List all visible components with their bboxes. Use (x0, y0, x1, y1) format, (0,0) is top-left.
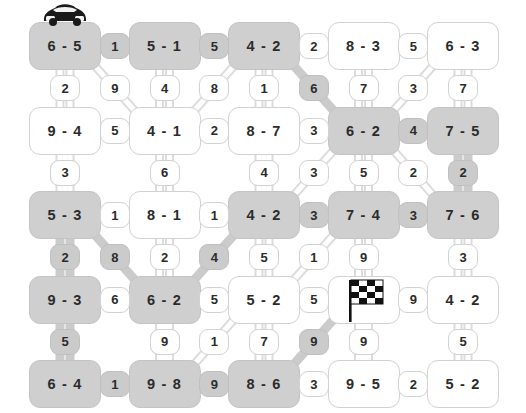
horizontal-edge-h3-3[interactable]: 9 (398, 287, 428, 313)
node-n0-3[interactable]: 8 - 3 (328, 22, 400, 70)
horizontal-edge-h0-1[interactable]: 5 (199, 33, 229, 59)
node-n4-2[interactable]: 8 - 6 (228, 360, 300, 408)
diagonal-edge-d0[interactable]: 9 (100, 75, 130, 101)
vertical-edge-v3-2[interactable]: 7 (249, 329, 279, 355)
horizontal-edge-h2-3[interactable]: 3 (398, 202, 428, 228)
diagonal-edge-d7[interactable]: 2 (398, 160, 428, 186)
node-n3-1[interactable]: 6 - 2 (129, 276, 201, 324)
horizontal-edge-h4-1[interactable]: 9 (199, 371, 229, 397)
diagonal-edge-d8[interactable]: 8 (100, 244, 130, 270)
horizontal-edge-h2-0[interactable]: 1 (100, 202, 130, 228)
horizontal-edge-h1-0[interactable]: 5 (100, 118, 130, 144)
checkered-flag-icon (344, 276, 388, 328)
horizontal-edge-h0-0[interactable]: 1 (100, 33, 130, 59)
node-n3-4[interactable]: 4 - 2 (427, 276, 499, 324)
puzzle-board: 6 - 55 - 14 - 28 - 36 - 39 - 44 - 18 - 7… (0, 0, 526, 413)
node-n2-3[interactable]: 7 - 4 (328, 191, 400, 239)
diagonal-edge-d1[interactable]: 8 (199, 75, 229, 101)
vertical-edge-v0-3[interactable]: 7 (349, 75, 379, 101)
node-n0-2[interactable]: 4 - 2 (228, 22, 300, 70)
horizontal-edge-h0-3[interactable]: 5 (398, 33, 428, 59)
node-n3-0[interactable]: 9 - 3 (29, 276, 101, 324)
diagonal-edge-d11[interactable]: 9 (150, 329, 180, 355)
horizontal-edge-h2-2[interactable]: 3 (299, 202, 329, 228)
horizontal-edge-h1-1[interactable]: 2 (199, 118, 229, 144)
vertical-edge-v2-0[interactable]: 2 (50, 244, 80, 270)
vertical-edge-v0-0[interactable]: 2 (50, 75, 80, 101)
car-icon (41, 0, 89, 30)
vertical-edge-v3-4[interactable]: 5 (448, 329, 478, 355)
diagonal-edge-d14[interactable]: 9 (349, 329, 379, 355)
node-n0-1[interactable]: 5 - 1 (129, 22, 201, 70)
diagonal-edge-d2[interactable]: 6 (299, 75, 329, 101)
node-n1-4[interactable]: 7 - 5 (427, 107, 499, 155)
vertical-edge-v1-3[interactable]: 5 (349, 160, 379, 186)
node-n4-3[interactable]: 9 - 5 (328, 360, 400, 408)
node-n1-2[interactable]: 8 - 7 (228, 107, 300, 155)
vertical-edge-v2-3[interactable]: 9 (349, 244, 379, 270)
diagonal-edge-d12[interactable]: 1 (199, 329, 229, 355)
vertical-edge-v2-1[interactable]: 2 (150, 244, 180, 270)
vertical-edge-v0-2[interactable]: 1 (249, 75, 279, 101)
diagonal-edge-d3[interactable]: 3 (398, 75, 428, 101)
node-n2-4[interactable]: 7 - 6 (427, 191, 499, 239)
node-n2-2[interactable]: 4 - 2 (228, 191, 300, 239)
node-n0-4[interactable]: 6 - 3 (427, 22, 499, 70)
node-n1-1[interactable]: 4 - 1 (129, 107, 201, 155)
node-n2-0[interactable]: 5 - 3 (29, 191, 101, 239)
horizontal-edge-h3-1[interactable]: 5 (199, 287, 229, 313)
horizontal-edge-h0-2[interactable]: 2 (299, 33, 329, 59)
diagonal-edge-d5[interactable]: 4 (249, 160, 279, 186)
horizontal-edge-h2-1[interactable]: 1 (199, 202, 229, 228)
node-n4-1[interactable]: 9 - 8 (129, 360, 201, 408)
diagonal-edge-d9[interactable]: 4 (199, 244, 229, 270)
node-n1-3[interactable]: 6 - 2 (328, 107, 400, 155)
vertical-edge-v0-4[interactable]: 7 (448, 75, 478, 101)
horizontal-edge-h4-2[interactable]: 3 (299, 371, 329, 397)
horizontal-edge-h3-0[interactable]: 6 (100, 287, 130, 313)
horizontal-edge-h4-0[interactable]: 1 (100, 371, 130, 397)
vertical-edge-v1-1[interactable]: 6 (150, 160, 180, 186)
vertical-edge-v2-2[interactable]: 5 (249, 244, 279, 270)
vertical-edge-v0-1[interactable]: 4 (150, 75, 180, 101)
horizontal-edge-h1-2[interactable]: 3 (299, 118, 329, 144)
vertical-edge-v1-4[interactable]: 2 (448, 160, 478, 186)
horizontal-edge-h4-3[interactable]: 2 (398, 371, 428, 397)
node-n2-1[interactable]: 8 - 1 (129, 191, 201, 239)
diagonal-edge-d6[interactable]: 3 (299, 160, 329, 186)
horizontal-edge-h3-2[interactable]: 5 (299, 287, 329, 313)
vertical-edge-v2-4[interactable]: 3 (448, 244, 478, 270)
diagonal-edge-d13[interactable]: 9 (299, 329, 329, 355)
horizontal-edge-h1-3[interactable]: 4 (398, 118, 428, 144)
node-n3-2[interactable]: 5 - 2 (228, 276, 300, 324)
diagonal-edge-d4[interactable]: 3 (50, 160, 80, 186)
node-n4-0[interactable]: 6 - 4 (29, 360, 101, 408)
vertical-edge-v3-0[interactable]: 5 (50, 329, 80, 355)
diagonal-edge-d10[interactable]: 1 (299, 244, 329, 270)
node-n4-4[interactable]: 5 - 2 (427, 360, 499, 408)
node-n1-0[interactable]: 9 - 4 (29, 107, 101, 155)
